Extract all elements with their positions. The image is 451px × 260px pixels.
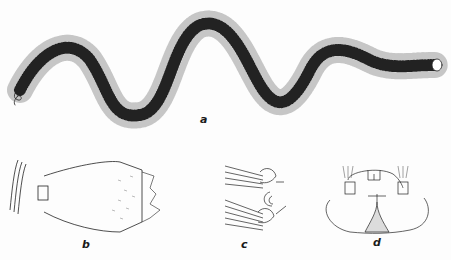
figure: a b c d bbox=[0, 0, 451, 260]
panel-label-b: b bbox=[82, 238, 90, 251]
panel-b-proboscis bbox=[10, 160, 160, 232]
panel-d-head bbox=[326, 166, 428, 233]
panel-label-d: d bbox=[373, 236, 381, 249]
panel-c-parapodium bbox=[225, 166, 286, 230]
worm-illustration bbox=[0, 0, 451, 260]
panel-label-a: a bbox=[200, 113, 207, 126]
panel-label-c: c bbox=[241, 238, 248, 251]
panel-a-worm bbox=[14, 24, 442, 116]
